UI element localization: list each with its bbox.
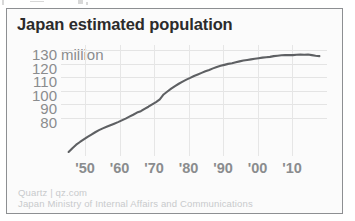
y-axis-tick-label: 80 [40, 115, 57, 130]
footer-source-quartz: Quartz | qz.com [18, 188, 334, 199]
x-axis-tick-label: '00 [248, 161, 268, 176]
x-axis-tick-label: '60 [110, 161, 130, 176]
chart-footer: Quartz | qz.com Japan Ministry of Intern… [18, 188, 334, 209]
x-axis-tick-label: '10 [282, 161, 302, 176]
plot-area [61, 45, 327, 156]
scan-artifact [0, 0, 355, 8]
x-axis-tick-label: '80 [179, 161, 199, 176]
footer-source-ministry: Japan Ministry of Internal Affairs and C… [18, 199, 334, 210]
chart-card: Japan estimated population 130 120 110 1… [6, 8, 343, 214]
y-axis-tick-labels: 130 120 110 100 90 80 [7, 9, 57, 214]
population-line-series [61, 45, 327, 156]
chart-figure: Japan estimated population 130 120 110 1… [0, 0, 355, 221]
x-axis-tick-label: '50 [75, 161, 95, 176]
x-axis-tick-label: '90 [213, 161, 233, 176]
x-axis-tick-label: '70 [144, 161, 164, 176]
